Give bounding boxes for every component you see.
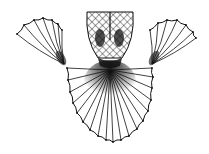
illustration-svg: [0, 0, 209, 154]
left-fan-appendage: [16, 17, 68, 67]
lower-fan-skirt: [66, 60, 154, 143]
organism-illustration: [0, 0, 209, 154]
central-netted-bulb: [87, 12, 134, 68]
right-fan-appendage: [147, 19, 197, 67]
